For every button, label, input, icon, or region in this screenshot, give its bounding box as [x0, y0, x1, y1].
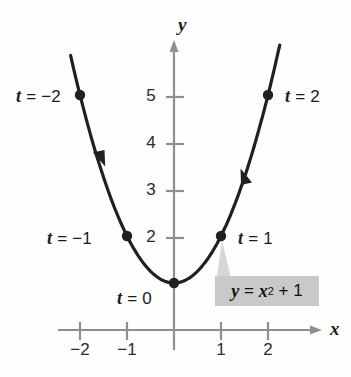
label-t-two-value: = 2 [290, 87, 320, 106]
equation-callout-box: y = x2 + 1 [215, 276, 319, 306]
label-t-zero-value: = 0 [122, 289, 152, 308]
x-axis-label: x [330, 318, 340, 340]
y-axis-arrow-icon [170, 40, 179, 52]
plot-canvas [0, 0, 351, 377]
equation-equals: = [239, 281, 258, 301]
point-t-minus-1 [122, 231, 132, 241]
y-tick-label-3: 3 [141, 180, 161, 200]
point-t-one [216, 231, 226, 241]
y-axis [166, 40, 184, 350]
x-axis-arrow-icon [310, 326, 322, 335]
label-t-minus-1-value: = −1 [52, 229, 92, 248]
y-tick-label-4: 4 [141, 133, 161, 153]
x-axis [58, 322, 322, 340]
label-t-one-value: = 1 [243, 229, 273, 248]
x-tick-label-1: 1 [211, 340, 231, 360]
x-tick-label-2: 2 [258, 340, 278, 360]
y-tick-label-2: 2 [141, 227, 161, 247]
parametric-curve-figure: y x 2 3 4 5 −2 −1 1 2 t = −2 t = −1 t = … [0, 0, 351, 377]
x-tick-label-minus-1: −1 [112, 340, 142, 360]
equation-rhs-tail: + 1 [274, 281, 303, 301]
label-t-minus-2-value: = −2 [21, 87, 61, 106]
label-t-minus-1: t = −1 [47, 228, 92, 249]
label-t-zero: t = 0 [117, 288, 152, 309]
point-t-minus-2 [75, 90, 85, 100]
x-tick-label-minus-2: −2 [65, 340, 95, 360]
y-tick-label-5: 5 [141, 86, 161, 106]
point-t-two [263, 90, 273, 100]
label-t-two: t = 2 [285, 86, 320, 107]
point-t-zero [169, 278, 179, 288]
equation-rhs-base: x [259, 281, 268, 302]
label-t-one: t = 1 [238, 228, 273, 249]
equation-lhs: y [231, 281, 239, 302]
y-axis-label: y [178, 14, 186, 36]
label-t-minus-2: t = −2 [16, 86, 61, 107]
